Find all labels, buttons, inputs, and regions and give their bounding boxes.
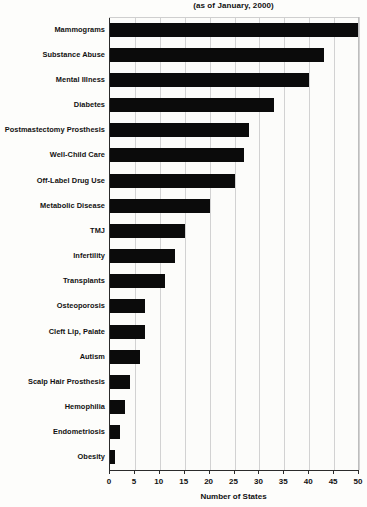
category-label: Infertility [1,251,105,260]
bar-row [110,420,359,445]
plot-area [109,17,359,471]
category-label: Postmastectomy Prosthesis [1,125,105,134]
category-label: Endometriosis [1,427,105,436]
category-label: Autism [1,352,105,361]
bar [110,249,175,263]
bar [110,174,235,188]
bar [110,400,125,414]
bar-row [110,93,359,118]
plot-right-border [358,17,359,471]
bar [110,123,249,137]
x-tick [209,470,210,474]
bar [110,73,309,87]
category-label: Off-Label Drug Use [1,176,105,185]
bar-row [110,369,359,394]
bar [110,450,115,464]
category-label: Hemophilia [1,402,105,411]
bar [110,48,324,62]
x-tick [109,470,110,474]
category-label: Substance Abuse [1,50,105,59]
bar [110,148,244,162]
x-tick [258,470,259,474]
bar-row [110,42,359,67]
x-axis-title: Number of States [109,492,358,501]
category-label: Mammograms [1,25,105,34]
category-axis: MammogramsSubstance AbuseMental IllnessD… [0,17,105,470]
category-label: Obesity [1,452,105,461]
bar-row [110,269,359,294]
bar [110,350,140,364]
bar-row [110,445,359,470]
bar-row [110,218,359,243]
x-tick [184,470,185,474]
x-tick [358,470,359,474]
bar-row [110,168,359,193]
bar-row [110,294,359,319]
bar-row [110,395,359,420]
bar [110,98,274,112]
category-label: Mental Illness [1,75,105,84]
chart-subtitle: (as of January, 2000) [109,1,358,10]
category-label: Scalp Hair Prosthesis [1,377,105,386]
x-tick [234,470,235,474]
x-tick [308,470,309,474]
x-tick [159,470,160,474]
category-label: TMJ [1,226,105,235]
category-label: Metabolic Disease [1,201,105,210]
category-label: Well-Child Care [1,150,105,159]
bar [110,425,120,439]
x-tick [134,470,135,474]
bar-row [110,244,359,269]
plot-top-border [109,17,358,18]
bar [110,375,130,389]
bar [110,199,210,213]
bar-row [110,193,359,218]
bar [110,224,185,238]
category-label: Cleft Lip, Palate [1,327,105,336]
bar-row [110,344,359,369]
bar-row [110,67,359,92]
bar [110,299,145,313]
bar [110,325,145,339]
bar-row [110,118,359,143]
x-tick [333,470,334,474]
bar-row [110,319,359,344]
x-tick [283,470,284,474]
category-label: Osteoporosis [1,301,105,310]
bar [110,23,359,37]
bar [110,274,165,288]
category-label: Diabetes [1,100,105,109]
bar-row [110,143,359,168]
x-tick-label: 50 [343,477,367,486]
category-label: Transplants [1,276,105,285]
gridline [359,17,360,470]
bar-row [110,17,359,42]
